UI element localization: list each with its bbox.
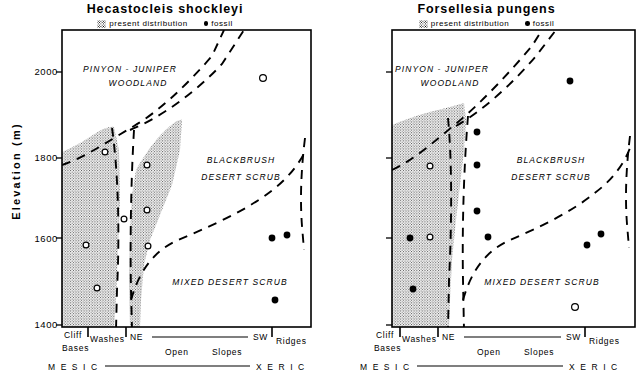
fossil-point-filled <box>410 286 417 293</box>
fossil-point-open <box>94 285 100 291</box>
fossil-point-open <box>572 304 579 311</box>
fossil-point-filled <box>284 232 291 239</box>
y-axis-ticks <box>56 72 62 325</box>
fossil-point-filled <box>485 234 492 241</box>
y-axis-ticks <box>386 72 392 325</box>
plot-area-left <box>0 0 330 376</box>
present-distribution-region-washes <box>129 120 182 327</box>
fossil-point-open <box>144 162 150 168</box>
fossil-point-filled <box>598 231 605 238</box>
fossil-point-open <box>427 234 433 240</box>
boundary-ridges-vertical <box>626 136 630 248</box>
fossil-point-open <box>102 149 108 155</box>
plot-area-right <box>330 0 643 376</box>
boundary-blackbrush-mixed <box>463 148 630 300</box>
fossil-point-filled <box>407 235 414 242</box>
fossil-point-filled <box>584 242 591 249</box>
boundary-pinyon-upper-right <box>130 30 244 130</box>
fossil-markers-filled <box>269 232 291 304</box>
fossil-point-open <box>83 242 89 248</box>
fossil-point-filled <box>474 208 481 215</box>
present-distribution-region-cliff <box>62 127 120 327</box>
fossil-point-open <box>260 75 267 82</box>
panel-forsellesia: Forsellesia pungens present distribution… <box>330 0 643 376</box>
fossil-point-open <box>427 163 433 169</box>
x-axis-ticks <box>88 327 272 337</box>
fossil-point-filled <box>272 297 279 304</box>
fossil-point-open <box>145 243 151 249</box>
boundary-ridges-vertical <box>301 138 305 250</box>
x-axis-ticks <box>400 327 585 337</box>
fossil-point-filled <box>474 129 481 136</box>
panel-hecastocleis: Hecastocleis shockleyi present distribut… <box>0 0 330 376</box>
fossil-point-open <box>144 207 150 213</box>
fossil-point-filled <box>269 235 276 242</box>
fossil-point-open <box>121 216 127 222</box>
fossil-point-filled <box>474 162 481 169</box>
fossil-point-filled <box>567 78 574 85</box>
vegetation-zone-figure: Elevation (m) Hecastocleis shockleyi pre… <box>0 0 643 376</box>
